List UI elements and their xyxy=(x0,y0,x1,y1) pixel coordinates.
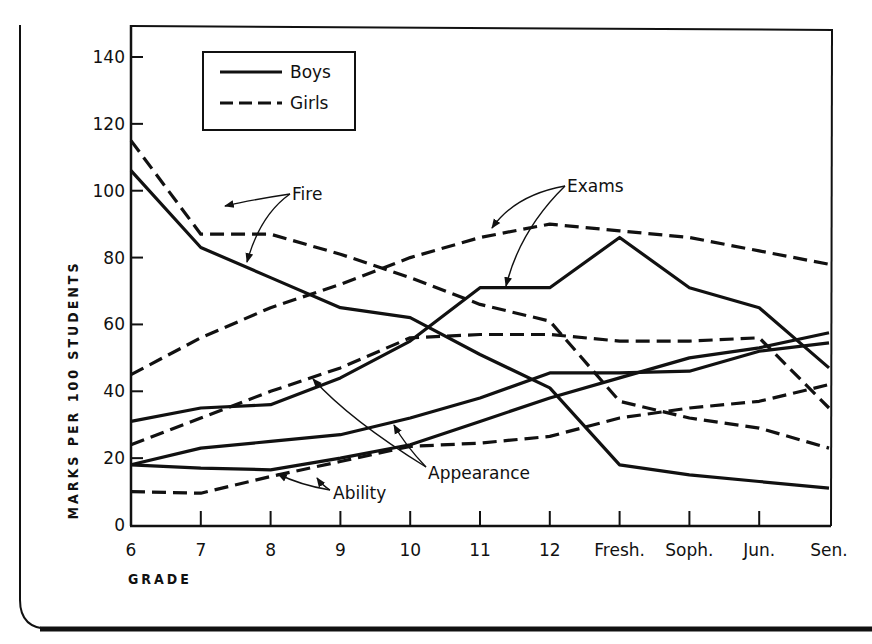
annotation-appearance: Appearance xyxy=(428,463,530,483)
plot-right-border xyxy=(831,30,832,526)
y-axis-ticks: 020406080100120140 xyxy=(93,47,143,535)
y-tick-label: 140 xyxy=(93,47,125,67)
x-tick-label: 9 xyxy=(335,540,346,560)
fire-arrow-girls xyxy=(225,194,290,206)
x-tick-label: Sen. xyxy=(810,540,847,560)
annotation-exams: Exams xyxy=(567,176,624,196)
x-tick-label: Fresh. xyxy=(594,540,645,560)
y-tick-label: 40 xyxy=(103,381,125,401)
x-tick-label: 8 xyxy=(265,540,276,560)
x-tick-label: 6 xyxy=(126,540,137,560)
chart: 020406080100120140 6789101112Fresh.Soph.… xyxy=(0,0,872,644)
y-tick-label: 120 xyxy=(93,114,125,134)
series-line-appearance-girls xyxy=(131,335,829,445)
exams-arrow-boys xyxy=(506,186,565,286)
y-axis-title: MARKS PER 100 STUDENTS xyxy=(65,261,81,520)
series-line-fire-girls xyxy=(131,141,829,449)
annotation-ability: Ability xyxy=(333,483,386,503)
line-chart-svg: 020406080100120140 6789101112Fresh.Soph.… xyxy=(0,0,872,644)
exams-arrow-girls xyxy=(492,186,565,228)
outer-frame xyxy=(20,25,872,629)
x-axis-title: GRADE xyxy=(128,571,192,587)
ability-arrow-boys xyxy=(278,474,330,490)
annotation-fire: Fire xyxy=(292,184,322,204)
plot-top-border xyxy=(131,26,833,30)
x-tick-label: 11 xyxy=(469,540,491,560)
x-axis-ticks: 6789101112Fresh.Soph.Jun.Sen. xyxy=(126,511,848,560)
series-layer xyxy=(131,141,829,494)
x-tick-label: 12 xyxy=(539,540,561,560)
legend-girls-label: Girls xyxy=(290,93,329,113)
fire-arrow-boys xyxy=(247,194,290,262)
y-tick-label: 60 xyxy=(103,314,125,334)
x-tick-label: Soph. xyxy=(665,540,713,560)
y-tick-label: 0 xyxy=(114,515,125,535)
x-tick-label: 7 xyxy=(195,540,206,560)
y-tick-label: 80 xyxy=(103,248,125,268)
x-tick-label: 10 xyxy=(399,540,421,560)
y-tick-label: 20 xyxy=(103,448,125,468)
legend-boys-label: Boys xyxy=(290,62,331,82)
series-line-fire-boys xyxy=(131,171,829,489)
legend: Boys Girls xyxy=(203,52,355,130)
x-tick-label: Jun. xyxy=(742,540,775,560)
legend-box xyxy=(203,52,355,130)
series-line-exams-boys xyxy=(131,238,829,422)
y-tick-label: 100 xyxy=(93,181,125,201)
